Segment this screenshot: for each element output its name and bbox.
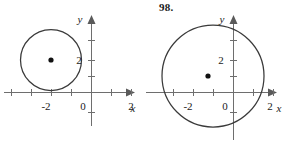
y-axis-label: y xyxy=(77,13,83,25)
circle-center-dot xyxy=(205,73,210,78)
circle-graph-left-panel: -2 0 2 2 x y xyxy=(0,0,142,145)
right-chart-svg: -2 0 2 2 x y xyxy=(142,0,284,145)
y-tick-label-2: 2 xyxy=(218,54,224,66)
origin-label: 0 xyxy=(222,100,228,112)
x-tick-label-2: 2 xyxy=(267,100,273,112)
x-axis-arrow-icon xyxy=(126,89,135,97)
x-tick-label-neg2: -2 xyxy=(183,100,192,112)
x-axis-arrow-icon xyxy=(268,89,277,97)
x-axis-label: x xyxy=(276,102,282,114)
y-axis-arrow-icon xyxy=(230,15,238,24)
circle-curve xyxy=(162,25,264,127)
y-axis-arrow-icon xyxy=(88,15,96,24)
circle-center-dot xyxy=(48,57,53,62)
circle-graph-right-panel: 98. xyxy=(142,0,284,145)
y-tick-label-2: 2 xyxy=(76,54,82,66)
left-chart-svg: -2 0 2 2 x y xyxy=(0,0,142,145)
x-axis-label: x xyxy=(130,102,136,114)
y-axis-label: y xyxy=(219,13,225,25)
figure-page: -2 0 2 2 x y 98. xyxy=(0,0,284,145)
x-tick-label-neg2: -2 xyxy=(41,100,50,112)
origin-label: 0 xyxy=(80,100,86,112)
